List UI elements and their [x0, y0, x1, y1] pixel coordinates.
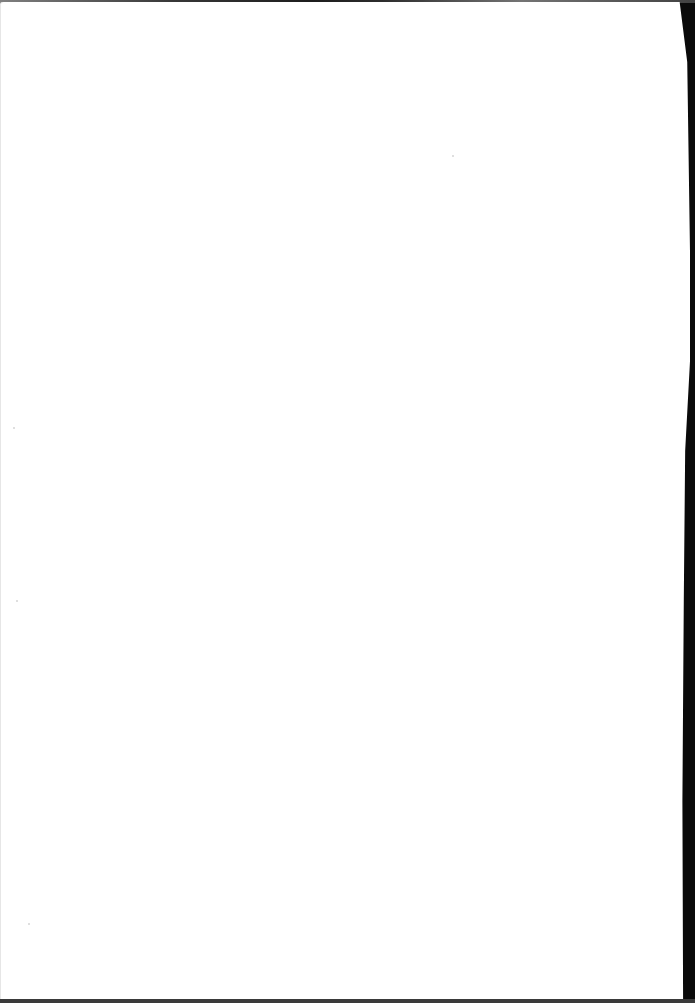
scan-speck — [13, 427, 15, 429]
scan-frame — [0, 0, 695, 1003]
scan-speck — [16, 600, 18, 602]
scan-speck — [28, 923, 30, 925]
scan-speck — [452, 155, 454, 157]
bottom-edge-shadow — [0, 999, 695, 1003]
blank-page — [0, 2, 690, 1000]
page-content — [0, 2, 690, 1000]
